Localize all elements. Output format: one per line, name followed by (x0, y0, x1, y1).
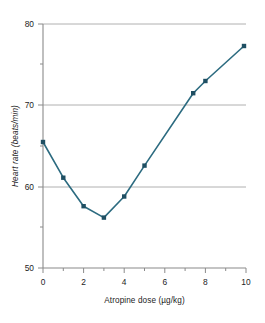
x-tick-label-2: 2 (74, 277, 94, 287)
x-axis-ticks (43, 268, 246, 273)
y-axis-ticks (38, 24, 43, 268)
heart-rate-vs-atropine-dose-line-chart (0, 0, 265, 323)
x-tick-label-8: 8 (195, 277, 215, 287)
data-point-7 (203, 79, 207, 83)
plot-area-background (43, 24, 246, 268)
x-tick-label-4: 4 (114, 277, 134, 287)
data-point-8 (242, 44, 246, 48)
chart-figure: 80 70 60 50 0 2 4 6 8 10 Heart rate (bea… (0, 0, 265, 323)
x-tick-label-6: 6 (155, 277, 175, 287)
x-tick-label-10: 10 (236, 277, 256, 287)
data-point-1 (61, 176, 65, 180)
data-point-4 (122, 194, 126, 198)
x-axis-title: Atropine dose (µg/kg) (43, 296, 246, 305)
data-point-0 (41, 140, 45, 144)
y-axis-title: Heart rate (beats/min) (9, 24, 23, 268)
data-point-5 (142, 163, 146, 167)
data-point-3 (102, 215, 106, 219)
data-point-6 (191, 91, 195, 95)
data-point-2 (81, 204, 85, 208)
x-tick-label-0: 0 (33, 277, 53, 287)
